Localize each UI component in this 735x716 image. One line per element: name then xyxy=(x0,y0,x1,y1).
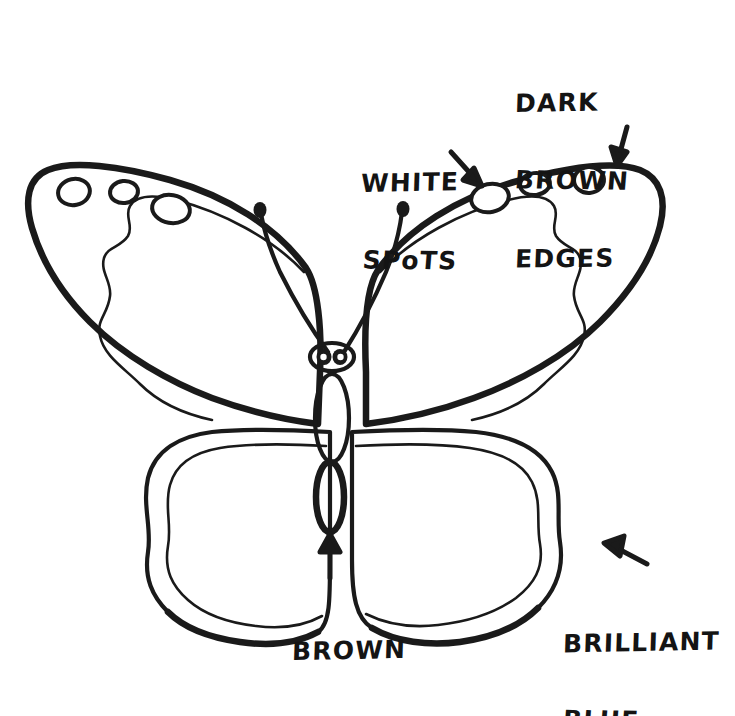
annotation-line: SPoTS xyxy=(360,247,460,274)
white-spot-left-2 xyxy=(109,180,139,205)
arrow-brilliant-blue-wings xyxy=(604,536,647,564)
annotation-brilliant-blue-wings: BRILLIANT BLUE WINGS xyxy=(563,578,720,716)
annotation-line: WHITE xyxy=(361,169,460,197)
annotation-brown-body: BROWN BODY xyxy=(292,586,406,716)
annotation-line: DARK xyxy=(515,89,630,117)
butterfly-sketch-canvas: DARK BROWN EDGES WHITE SPoTS BROWN BODY … xyxy=(0,0,735,716)
left-forewing xyxy=(28,165,320,424)
annotation-line: BLUE xyxy=(562,707,721,716)
left-antenna-club xyxy=(254,202,267,218)
annotation-line: BROWN xyxy=(514,167,630,194)
annotation-dark-brown-edges: DARK BROWN EDGES xyxy=(515,38,629,324)
annotation-line: BRILLIANT xyxy=(563,628,721,657)
annotation-line: EDGES xyxy=(514,245,629,272)
annotation-line: BROWN xyxy=(292,637,407,665)
annotation-white-spots: WHITE SPoTS xyxy=(361,118,459,326)
